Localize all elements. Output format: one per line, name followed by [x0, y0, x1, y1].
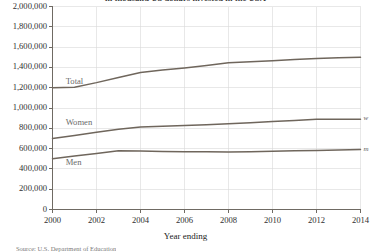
tickmarks-group	[49, 7, 361, 214]
gridlines-group	[53, 7, 361, 210]
x-axis-tick-label: 2010	[253, 215, 293, 225]
source-note: Source: U.S. Department of Education	[16, 245, 116, 252]
y-axis-tick-label: 1,600,000	[1, 41, 47, 51]
edge-label-women: w	[364, 114, 369, 122]
y-axis-tick-label: 200,000	[1, 183, 47, 193]
x-axis-title: Year ending	[0, 231, 371, 241]
y-axis-tick-label: 1,400,000	[1, 61, 47, 71]
x-axis-tick-label: 2000	[33, 215, 73, 225]
y-axis-tick-label: 600,000	[1, 143, 47, 153]
x-axis-tick-label: 2006	[165, 215, 205, 225]
chart-container: in thousand US dollars invested in the U…	[0, 0, 371, 252]
y-axis-tick-label: 0	[1, 204, 47, 214]
y-axis-tick-label: 1,000,000	[1, 102, 47, 112]
x-axis-tick-label: 2014	[341, 215, 371, 225]
y-axis-tick-label: 1,200,000	[1, 82, 47, 92]
x-axis-tick-label: 2004	[121, 215, 161, 225]
x-axis-tick-label: 2002	[77, 215, 117, 225]
series-line-women	[53, 119, 361, 138]
x-axis-tick-label: 2012	[297, 215, 337, 225]
series-label-women: Women	[66, 117, 93, 127]
y-axis-tick-label: 800,000	[1, 122, 47, 132]
x-axis-tick-label: 2008	[209, 215, 249, 225]
y-axis-tick-label: 400,000	[1, 163, 47, 173]
series-label-men: Men	[66, 157, 82, 167]
series-line-total	[53, 57, 361, 87]
series-line-men	[53, 150, 361, 159]
y-axis-tick-label: 2,000,000	[1, 1, 47, 11]
edge-label-men: m	[364, 145, 369, 153]
series-label-total: Total	[66, 76, 84, 86]
y-axis-tick-label: 1,800,000	[1, 21, 47, 31]
